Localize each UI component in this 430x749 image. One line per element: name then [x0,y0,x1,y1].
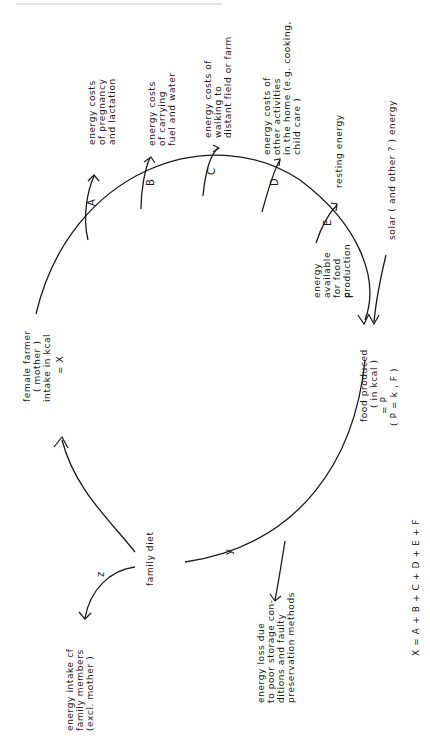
text-line: energy costs [87,80,97,145]
text-line: preservation methods [286,592,296,703]
label-A: A [86,199,97,206]
text-line: energy [312,263,322,298]
text-line: (excl. mother ) [85,656,95,731]
text-line: energy costs [147,81,157,146]
node-mother: female farmer ( mother ) intake in kcal … [22,330,65,402]
arrowhead-to-mother [54,437,68,448]
text-B: energy costs of carrying fuel and water [147,72,177,146]
cycle-arc-food-to-diet [185,360,365,562]
label-y: y [223,549,234,555]
text-line: = P [379,396,389,414]
text-line: energy costs of [203,60,213,138]
label-C: C [206,168,217,175]
text-line: child care ) [292,98,302,155]
text-line: ( mother ) [32,341,42,393]
text-F: energy available for food production [312,244,352,298]
text-line: ditions and faulty [276,614,286,703]
text-line: of carrying [157,91,167,146]
equation-text: X = A + B + C + D + E + F [411,519,421,656]
text-line: female farmer [22,330,32,402]
text-line: of pregnancy [97,79,107,145]
text-line: available [322,252,332,298]
text-line: to poor storage con- [266,599,276,703]
label-E: E [322,220,333,226]
label-z: z [95,572,106,577]
arrow-y-loss [275,541,285,600]
node-food-produced: food produced ( in kcal ) = P ( P = k , … [359,349,399,426]
text-line: ( P = k , F ) [389,368,399,426]
text-C: energy costs of walking to distant field… [203,36,233,138]
arrowhead-F [358,314,369,324]
text-line: intake in kcal [42,334,52,402]
label-D: D [269,178,280,186]
text-line: and lactation [107,78,117,145]
text-line: ( in kcal ) [369,359,379,408]
text-line: energy loss due [256,623,266,703]
energy-flow-diagram: A B C D E F y z energy costs of pregnanc… [0,0,430,749]
text-line: energy intake cf [65,648,75,731]
text-line: family members [75,649,85,731]
text-D: energy costs of other activities in the … [262,21,302,155]
equation: X = A + B + C + D + E + F [411,519,421,656]
text-line: in the home (e.g. cooking, [282,21,292,155]
text-line: distant field or farm [223,36,233,138]
arrow-z [85,567,135,618]
text-E: resting energy [334,114,344,188]
label-B: B [145,179,156,186]
text-A: energy costs of pregnancy and lactation [87,78,117,145]
text-line: food produced [359,349,369,422]
text-line: for food [332,258,342,298]
text-family-members: energy intake cf family members (excl. m… [65,648,95,731]
text-line: solar ( and other ? ) energy [387,100,397,240]
text-line: resting energy [334,114,344,188]
text-line: energy costs of [262,77,272,155]
text-line: = X [55,356,65,374]
text-line: family diet [145,531,155,586]
text-loss: energy loss due to poor storage con- dit… [256,592,296,703]
text-solar: solar ( and other ? ) energy [387,100,397,240]
text-line: other activities [272,78,282,155]
text-line: walking to [213,86,223,138]
text-line: fuel and water [167,72,177,146]
cycle-arc-diet-to-mother [62,440,135,552]
text-line: production [342,244,352,298]
arrow-solar [374,255,386,322]
node-family-diet: family diet [145,531,155,586]
